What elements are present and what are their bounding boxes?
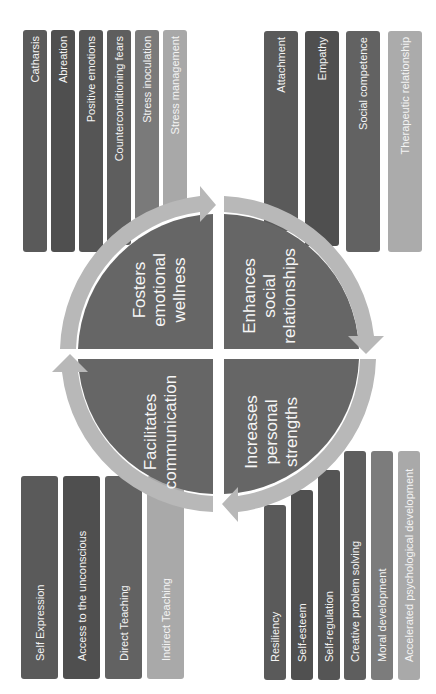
- label-line: emotional: [150, 253, 170, 327]
- label-line: relationships: [280, 248, 300, 343]
- label-line: wellness: [170, 253, 190, 327]
- label-line: Facilitates: [141, 375, 161, 489]
- cycle-ring: [52, 186, 384, 522]
- quadrant-fills: [78, 214, 359, 494]
- quadrant-label-emotional-wellness: Fosters emotional wellness: [130, 253, 190, 327]
- label-line: social: [260, 248, 280, 343]
- label-line: personal: [262, 395, 282, 469]
- label-line: Fosters: [130, 253, 150, 327]
- label-line: communication: [161, 375, 181, 489]
- quadrant-label-social-relationships: Enhances social relationships: [240, 248, 300, 343]
- label-line: Increases: [242, 395, 262, 469]
- quadrant-label-personal-strengths: Increases personal strengths: [242, 395, 302, 469]
- quadrant-label-communication: Facilitates communication: [141, 375, 181, 489]
- cycle-diagram: [0, 0, 436, 694]
- label-line: Enhances: [240, 248, 260, 343]
- label-line: strengths: [282, 395, 302, 469]
